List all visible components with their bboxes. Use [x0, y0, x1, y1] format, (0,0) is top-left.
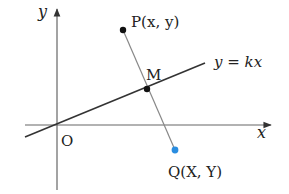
point-m-label: M — [146, 66, 161, 84]
x-axis-label: x — [257, 123, 266, 142]
point-p — [120, 27, 126, 33]
line-label: y = kx — [213, 53, 263, 71]
origin-label: O — [61, 132, 73, 150]
point-q-label: Q(X, Y) — [168, 163, 222, 181]
point-m — [144, 86, 150, 92]
point-q — [172, 147, 179, 154]
reflection-diagram: y x O P(x, y) M y = kx Q(X, Y) — [0, 0, 289, 194]
y-axis-label: y — [37, 2, 48, 21]
line-y-equals-kx — [25, 63, 205, 137]
point-p-label: P(x, y) — [131, 13, 179, 31]
